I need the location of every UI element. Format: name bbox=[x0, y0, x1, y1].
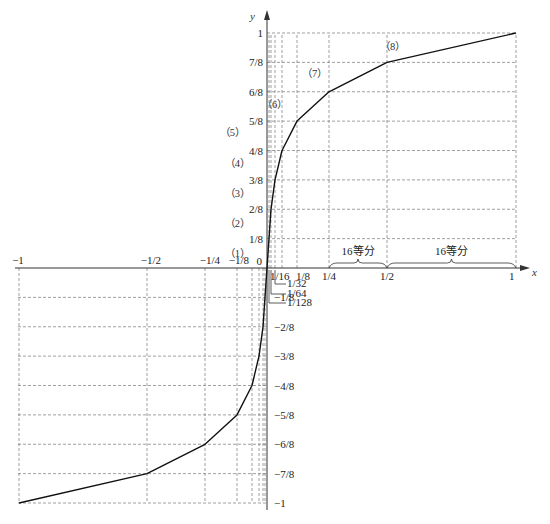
x-tick-label-small: 1/128 bbox=[287, 296, 313, 308]
brace-label: 16等分 bbox=[435, 244, 468, 257]
y-tick-label: −3/8 bbox=[274, 350, 295, 362]
y-axis-arrow-icon bbox=[264, 10, 270, 20]
x-tick-label: 1/4 bbox=[322, 270, 337, 282]
x-axis-label: x bbox=[531, 266, 537, 278]
y-tick-label: 6/8 bbox=[249, 86, 264, 98]
y-tick-label: 1 bbox=[258, 27, 264, 39]
y-tick-label: −6/8 bbox=[274, 438, 295, 450]
segment-label: （8） bbox=[380, 41, 405, 52]
y-tick-label: 2/8 bbox=[249, 203, 264, 215]
x-axis-arrow-icon bbox=[520, 265, 530, 271]
x-tick-label: 1 bbox=[509, 270, 515, 282]
segment-label: （3） bbox=[225, 188, 250, 199]
segment-label: （2） bbox=[225, 218, 250, 229]
brace-annotation bbox=[387, 259, 516, 268]
y-tick-label: −7/8 bbox=[274, 468, 295, 480]
segment-label: （6） bbox=[262, 99, 287, 110]
x-tick-label: −1/4 bbox=[200, 254, 221, 266]
y-tick-label: 4/8 bbox=[249, 145, 264, 157]
segment-label: （7） bbox=[302, 68, 327, 79]
compression-curve-chart: x y 16等分16等分 1/82/83/84/85/86/87/81−1/8−… bbox=[0, 0, 550, 524]
y-tick-label: 1/8 bbox=[249, 233, 264, 245]
x-tick-label: −1 bbox=[12, 254, 24, 266]
segment-label: （1） bbox=[225, 248, 250, 259]
y-tick-label: −2/8 bbox=[274, 321, 295, 333]
y-tick-label: −5/8 bbox=[274, 409, 295, 421]
y-tick-label: −4/8 bbox=[274, 380, 295, 392]
segment-label: （4） bbox=[225, 158, 250, 169]
y-axis-label: y bbox=[249, 10, 255, 22]
brace-label: 16等分 bbox=[342, 244, 375, 257]
x-tick-label: 1/2 bbox=[380, 270, 394, 282]
y-tick-label: 3/8 bbox=[249, 174, 264, 186]
y-tick-label: 7/8 bbox=[249, 56, 264, 68]
x-tick-label: −1/2 bbox=[141, 254, 161, 266]
axes: x y bbox=[15, 10, 537, 510]
segment-label: （5） bbox=[220, 127, 245, 138]
origin-label: 0 bbox=[257, 255, 263, 267]
segment-labels: （1）（2）（3）（4）（5）（6）（7）（8） bbox=[220, 41, 406, 259]
brace-annotation bbox=[329, 259, 387, 268]
y-tick-label: 5/8 bbox=[249, 115, 264, 127]
braces: 16等分16等分 bbox=[329, 244, 516, 268]
y-tick-label: −1 bbox=[274, 497, 286, 509]
